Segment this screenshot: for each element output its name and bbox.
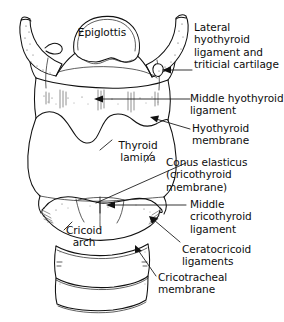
cricoid-superior-border [44,197,160,208]
arrowhead-middle-hyothyroid [94,96,103,103]
lesser-horn-left [45,43,62,54]
label-middle-hyothyroid-ligament: Middle hyothyroid ligament [190,92,284,117]
label-thyroid-lamina: Thyroid lamina [110,139,166,164]
ceratocricoid-ligament-detail [42,210,160,224]
epiglottis-group [74,16,140,63]
trachea-group [55,244,150,313]
label-middle-cricothyroid-ligament: Middle cricothyroid ligament [190,198,280,235]
arrowhead-hyothyroid-membrane [150,116,159,123]
tracheal-ring-inner-top [57,248,147,259]
inferior-horn-left [39,196,41,213]
label-epiglottis: Epiglottis [70,26,134,38]
tracheal-ring-left-tick [57,262,62,266]
hyoid-body-inner-line [58,67,157,78]
triticial-cartilage-right [153,64,163,77]
laryngeal-anatomy-figure: Epiglottis Lateral hyothyroid ligament a… [0,0,284,322]
epiglottis-shape [74,16,140,62]
arrowhead-cricotracheal [135,245,142,253]
thyroid-lamina-left-border [28,118,40,196]
tracheal-ring-2 [55,276,148,311]
hyoid-body-inferior [36,78,168,88]
leader-ceratocricoid [154,220,180,242]
hyothyroid-membrane-left [35,78,37,118]
label-cricotracheal-membrane: Cricotracheal membrane [158,271,268,296]
label-lateral-hyothyroid-ligament: Lateral hyothyroid ligament and triticia… [194,21,284,71]
cricoid-ridge-left [76,199,84,222]
cricoid-ridge-right [117,200,124,223]
label-hyothyroid-membrane: Hyothyroid membrane [192,122,280,147]
leader-hyothyroid-membrane [156,119,190,129]
inferior-horn-right [164,197,166,214]
label-ceratocricoid-ligaments: Ceratocricoid ligaments [182,243,282,268]
leader-cricotracheal [138,250,156,276]
label-cricoid-arch: Cricoid arch [56,224,112,249]
hyothyroid-membrane-right [168,80,170,120]
cricoid-left-margin [42,208,44,216]
label-conus-elasticus: Conus elasticus (cricothyroid membrane) [166,156,282,193]
